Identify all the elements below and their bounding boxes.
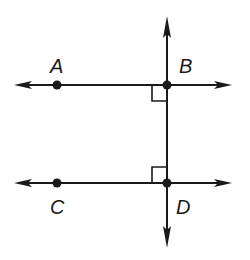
line-ab <box>14 81 232 89</box>
line-cd <box>14 179 232 187</box>
label-a: A <box>49 55 63 77</box>
label-c: C <box>50 196 65 218</box>
point-d <box>163 179 172 188</box>
geometry-diagram: A B C D <box>0 0 250 260</box>
point-b <box>163 81 172 90</box>
label-b: B <box>179 55 192 77</box>
line-bd <box>163 16 171 248</box>
point-c <box>53 179 62 188</box>
label-d: D <box>176 196 190 218</box>
point-a <box>53 81 62 90</box>
